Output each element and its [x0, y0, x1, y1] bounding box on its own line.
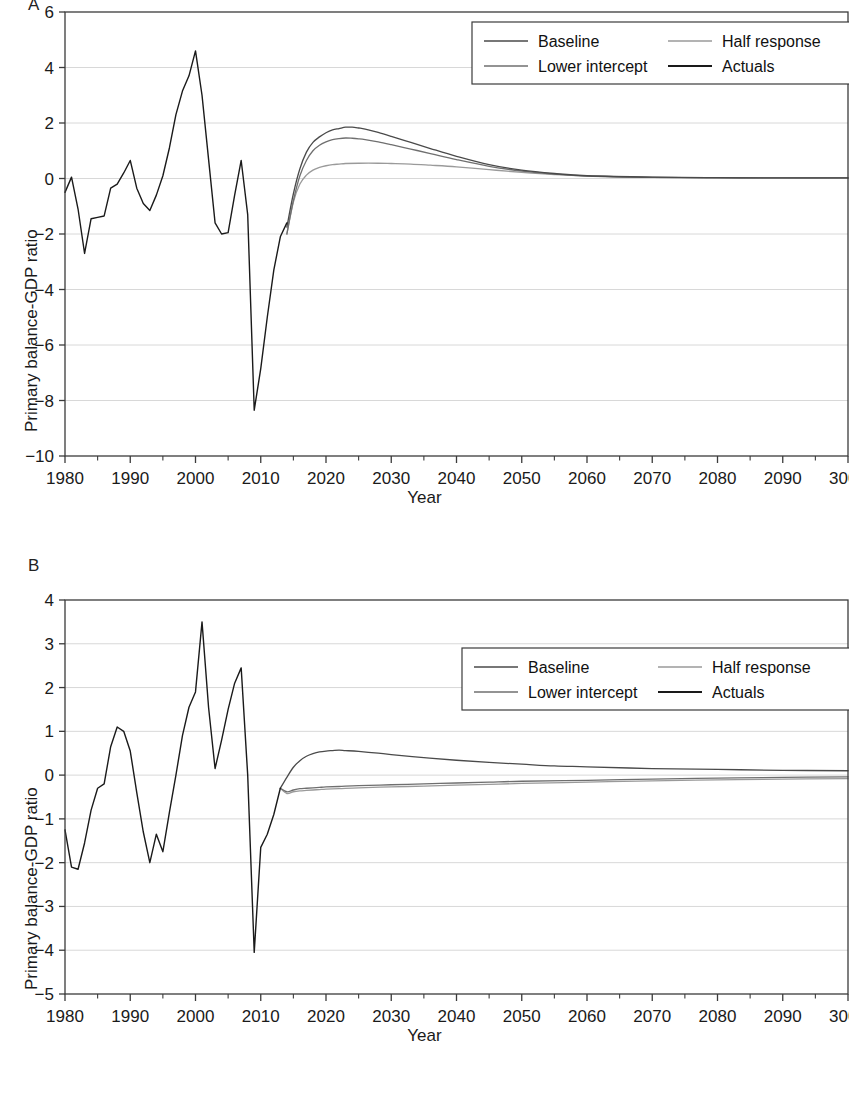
legend-label-half-response: Half response: [722, 33, 821, 50]
plot-area-a: −10−8−6−4−202461980199020002010202020302…: [64, 8, 849, 520]
x-axis: 1980199020002010202020302040205020602070…: [46, 456, 849, 488]
x-axis: 1980199020002010202020302040205020602070…: [46, 994, 849, 1026]
series-line-half-response: [287, 163, 848, 234]
y-tick-label: 2: [45, 114, 54, 133]
x-tick-label: 2040: [438, 469, 476, 488]
panel-letter-a: A: [28, 0, 40, 15]
x-tick-label: 2050: [503, 469, 541, 488]
chart-svg-b: −5−4−3−2−1012341980199020002010202020302…: [64, 596, 849, 1058]
x-tick-label: 2050: [503, 1007, 541, 1026]
x-tick-label: 2040: [438, 1007, 476, 1026]
x-tick-label: 2080: [699, 469, 737, 488]
x-tick-label: 3000: [829, 1007, 849, 1026]
y-tick-label: −4: [35, 941, 54, 960]
chart-svg-a: −10−8−6−4−202461980199020002010202020302…: [64, 8, 849, 520]
series-line-actuals: [65, 51, 287, 410]
x-tick-label: 2060: [568, 469, 606, 488]
y-tick-label: 0: [45, 766, 54, 785]
x-tick-label: 2010: [242, 1007, 280, 1026]
y-tick-label: 6: [45, 3, 54, 22]
x-tick-label: 2020: [307, 469, 345, 488]
y-tick-label: 2: [45, 679, 54, 698]
x-tick-label: 1980: [46, 1007, 84, 1026]
legend-label-half-response: Half response: [712, 659, 811, 676]
y-tick-label: 4: [45, 591, 54, 610]
y-tick-label: 0: [45, 170, 54, 189]
chart-panel-a: A Primary balance-GDP ratio −10−8−6−4−20…: [0, 0, 849, 548]
y-tick-label: 3: [45, 635, 54, 654]
series-line-actuals: [65, 622, 280, 953]
x-tick-label: 1980: [46, 469, 84, 488]
x-tick-label: 2090: [764, 469, 802, 488]
x-axis-label-b: Year: [0, 1026, 849, 1046]
legend-label-baseline: Baseline: [528, 659, 589, 676]
x-tick-label: 2030: [372, 469, 410, 488]
x-tick-label: 2070: [633, 469, 671, 488]
y-tick-label: −2: [35, 225, 54, 244]
y-tick-label: −5: [35, 985, 54, 1004]
y-tick-label: −4: [35, 281, 54, 300]
series-line-lower-intercept: [287, 138, 848, 234]
series-line-baseline: [287, 127, 848, 227]
x-tick-label: 2090: [764, 1007, 802, 1026]
x-tick-label: 2010: [242, 469, 280, 488]
y-tick-label: 4: [45, 59, 54, 78]
x-tick-label: 2030: [372, 1007, 410, 1026]
legend-label-baseline: Baseline: [538, 33, 599, 50]
y-tick-label: −10: [25, 447, 54, 466]
x-tick-label: 3000: [829, 469, 849, 488]
x-tick-label: 2070: [633, 1007, 671, 1026]
chart-panel-b: B Primary balance-GDP ratio −5−4−3−2−101…: [0, 548, 849, 1096]
y-tick-label: −2: [35, 854, 54, 873]
y-tick-label: 1: [45, 722, 54, 741]
y-tick-label: −1: [35, 810, 54, 829]
x-tick-label: 2000: [177, 1007, 215, 1026]
y-tick-label: −8: [35, 392, 54, 411]
legend-label-actuals: Actuals: [722, 58, 774, 75]
x-tick-label: 2020: [307, 1007, 345, 1026]
legend-label-lower-intercept: Lower intercept: [528, 684, 638, 701]
legend: BaselineHalf responseLower interceptActu…: [472, 22, 849, 84]
legend: BaselineHalf responseLower interceptActu…: [462, 648, 849, 710]
y-tick-label: −3: [35, 897, 54, 916]
x-tick-label: 1990: [111, 1007, 149, 1026]
legend-label-lower-intercept: Lower intercept: [538, 58, 648, 75]
gridlines: [65, 68, 848, 401]
plot-area-b: −5−4−3−2−1012341980199020002010202020302…: [64, 596, 849, 1058]
panel-letter-b: B: [28, 556, 40, 576]
x-tick-label: 2060: [568, 1007, 606, 1026]
x-tick-label: 2080: [699, 1007, 737, 1026]
x-tick-label: 2000: [177, 469, 215, 488]
x-tick-label: 1990: [111, 469, 149, 488]
legend-label-actuals: Actuals: [712, 684, 764, 701]
x-axis-label-a: Year: [0, 488, 849, 508]
y-tick-label: −6: [35, 336, 54, 355]
